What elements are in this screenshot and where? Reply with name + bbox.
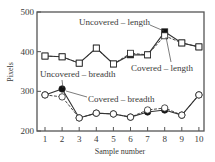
y-tick-label: 200	[21, 126, 35, 136]
x-tick-label: 7	[145, 134, 150, 144]
y-tick-label: 400	[21, 47, 35, 57]
x-tick-label: 3	[77, 134, 82, 144]
square-marker-icon	[128, 50, 134, 56]
circle-marker-icon	[144, 107, 150, 113]
circle-marker-icon	[196, 92, 202, 98]
label-uncovered-length: Uncovered – length	[79, 17, 150, 27]
leader-uncovered-length	[150, 25, 164, 31]
x-axis-ticks: 12345678910	[43, 127, 204, 144]
label-uncovered-breadth: Uncovered – breadth	[40, 69, 116, 79]
circle-marker-icon	[179, 112, 185, 118]
x-tick-label: 5	[111, 134, 116, 144]
line-chart: 200300400500 12345678910 Sample number P…	[0, 0, 215, 162]
circle-marker-icon	[59, 94, 65, 100]
x-tick-label: 6	[128, 134, 133, 144]
circle-marker-icon	[59, 86, 65, 92]
square-marker-icon	[59, 54, 65, 60]
square-marker-icon	[42, 53, 48, 59]
leader-covered-length	[166, 37, 171, 62]
series-uncovered-length	[42, 29, 202, 67]
square-marker-icon	[145, 52, 151, 58]
x-tick-label: 2	[60, 134, 65, 144]
square-marker-icon	[196, 44, 202, 50]
label-covered-breadth: Covered – breadth	[88, 94, 155, 104]
series-covered-length	[42, 33, 202, 67]
label-covered-length: Covered – length	[131, 63, 193, 73]
circle-marker-icon	[162, 105, 168, 111]
x-tick-label: 9	[180, 134, 185, 144]
circle-marker-icon	[127, 114, 133, 120]
square-marker-icon	[179, 40, 185, 46]
x-tick-label: 4	[94, 134, 99, 144]
square-marker-icon	[110, 61, 116, 67]
x-tick-label: 10	[194, 134, 204, 144]
x-tick-label: 8	[162, 134, 167, 144]
square-marker-icon	[93, 45, 99, 51]
circle-marker-icon	[42, 92, 48, 98]
y-axis-title: Pixels	[6, 62, 15, 82]
square-marker-icon	[76, 60, 82, 66]
y-axis-ticks: 200300400500	[21, 7, 42, 136]
y-tick-label: 500	[21, 7, 35, 17]
y-tick-label: 300	[21, 86, 35, 96]
x-axis-title: Sample number	[95, 147, 146, 156]
square-marker-icon	[162, 33, 168, 39]
x-tick-label: 1	[43, 134, 48, 144]
circle-marker-icon	[93, 110, 99, 116]
circle-marker-icon	[110, 111, 116, 117]
circle-marker-icon	[76, 115, 82, 121]
leader-covered-breadth	[66, 91, 87, 97]
